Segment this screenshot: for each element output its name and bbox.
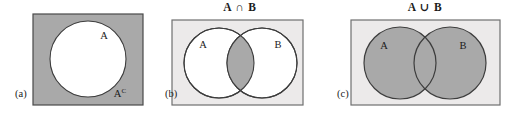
caption-b: (b) — [165, 88, 177, 99]
panel-b-intersection: A ∩ B A B (b) — [160, 0, 320, 118]
panel-c-union: A ∪ B A B (c) — [330, 0, 520, 118]
label-set-a: A — [100, 30, 108, 41]
label-set-a: A — [199, 39, 207, 50]
caption-c: (c) — [337, 88, 349, 99]
label-set-a: A — [380, 40, 388, 51]
caption-a: (a) — [15, 88, 27, 99]
panel-c-canvas: A B — [330, 0, 520, 118]
panel-a-complement: A AC (a) — [0, 0, 160, 118]
label-set-b: B — [459, 40, 466, 51]
panel-b-canvas: A B — [160, 0, 320, 118]
circle-a — [50, 21, 126, 97]
panel-a-canvas: A AC — [0, 0, 160, 118]
venn-diagram-figure: A AC (a) A ∩ B A B (b) A ∪ B — [0, 0, 520, 118]
label-set-b: B — [274, 39, 281, 50]
